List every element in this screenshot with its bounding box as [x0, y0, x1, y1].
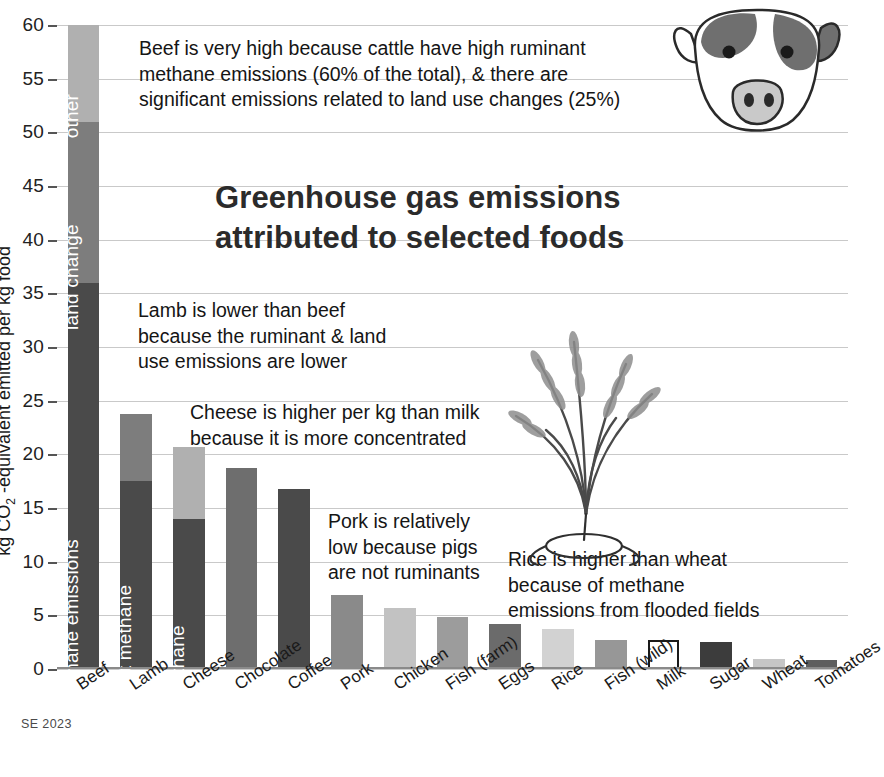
y-axis-tick	[48, 454, 57, 456]
bar-segment[interactable]	[120, 414, 152, 482]
bar-segment[interactable]	[331, 595, 363, 669]
y-axis-tick-label: 0	[33, 658, 44, 680]
y-axis-label-subscript: 2	[4, 498, 18, 505]
y-axis-tick	[48, 293, 57, 295]
bar-segment[interactable]: ruminant methane	[120, 481, 152, 669]
bar-segment[interactable]: methane	[173, 519, 205, 669]
y-axis-tick-label: 35	[22, 282, 44, 304]
bar-segment[interactable]: ruminant methane emissions	[68, 283, 100, 669]
y-axis-tick	[48, 25, 57, 27]
y-axis-label-suffix: -equivalent emitted per kg food	[0, 245, 14, 497]
cow-illustration	[671, 8, 843, 140]
y-axis-tick-label: 20	[22, 443, 44, 465]
y-axis-tick	[48, 401, 57, 403]
y-axis-tick	[48, 132, 57, 134]
rice-plant-illustration	[498, 318, 676, 568]
bar-segment-label: other	[61, 93, 83, 137]
y-axis-tick-label: 25	[22, 390, 44, 412]
y-axis-tick	[48, 240, 57, 242]
bar-segment-label: ruminant methane	[114, 585, 136, 741]
annotation-lamb: Lamb is lower than beef because the rumi…	[138, 298, 468, 375]
y-axis-tick-label: 55	[22, 68, 44, 90]
chart-title: Greenhouse gas emissions attributed to s…	[215, 178, 624, 259]
bar-lamb[interactable]: ruminant methane	[120, 414, 152, 669]
y-axis-tick-label: 50	[22, 121, 44, 143]
annotation-beef: Beef is very high because cattle have hi…	[139, 36, 684, 113]
bar-pork[interactable]	[331, 595, 363, 669]
bar-beef[interactable]: ruminant methane emissionsland changeoth…	[68, 25, 100, 669]
bar-chicken[interactable]	[384, 608, 416, 669]
y-axis-tick-label: 40	[22, 229, 44, 251]
y-axis-tick-label: 45	[22, 175, 44, 197]
y-axis-tick	[48, 562, 57, 564]
y-axis-tick	[48, 615, 57, 617]
bar-cheese[interactable]: methane	[173, 447, 205, 669]
bar-segment-label: land change	[61, 224, 83, 330]
y-axis-tick	[48, 669, 57, 671]
y-axis-tick-label: 5	[33, 604, 44, 626]
bar-segment[interactable]	[226, 468, 258, 669]
bar-segment[interactable]	[173, 447, 205, 519]
bar-segment[interactable]: other	[68, 25, 100, 122]
bar-chocolate[interactable]	[226, 468, 258, 669]
bar-segment-label: methane	[167, 625, 189, 700]
y-axis-tick	[48, 186, 57, 188]
y-axis-tick	[48, 347, 57, 349]
bar-segment-label: ruminant methane emissions	[61, 539, 83, 777]
bar-segment[interactable]	[384, 608, 416, 669]
y-axis-tick	[48, 508, 57, 510]
y-axis-label-prefix: kg CO	[0, 504, 14, 555]
y-axis-label: kg CO2 -equivalent emitted per kg food	[0, 245, 18, 555]
credit-label: SE 2023	[21, 717, 72, 731]
y-axis-tick-label: 15	[22, 497, 44, 519]
y-axis-tick-label: 30	[22, 336, 44, 358]
y-axis-tick	[48, 79, 57, 81]
y-axis-tick-label: 10	[22, 551, 44, 573]
bar-segment[interactable]: land change	[68, 122, 100, 283]
y-axis-tick-label: 60	[22, 14, 44, 36]
